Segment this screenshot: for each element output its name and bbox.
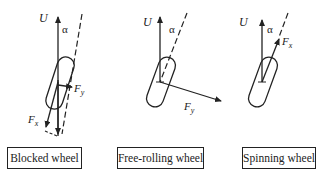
force-resultant-dashed-connector bbox=[45, 131, 57, 136]
force-y-label: Fy bbox=[73, 82, 85, 97]
velocity-label: U bbox=[239, 15, 249, 29]
caption-text: Blocked wheel bbox=[10, 152, 79, 164]
caption-text: Free-rolling wheel bbox=[118, 152, 203, 164]
force-x-arrow bbox=[46, 82, 58, 127]
caption-spinning-wheel: Spinning wheel bbox=[242, 147, 316, 169]
blocked-wheel-diagram: U α Fy Fx bbox=[27, 11, 85, 136]
caption-blocked-wheel: Blocked wheel bbox=[7, 147, 82, 169]
slip-angle-label: α bbox=[267, 23, 273, 35]
free-rolling-wheel-diagram: U α Fy bbox=[143, 13, 221, 115]
force-y-arrow bbox=[160, 82, 221, 101]
wheel-heading-dashed-line bbox=[279, 13, 288, 37]
slip-angle-label: α bbox=[62, 23, 68, 35]
force-x-label: Fx bbox=[281, 35, 293, 50]
force-y-label: Fy bbox=[183, 100, 195, 115]
caption-free-rolling-wheel: Free-rolling wheel bbox=[117, 147, 204, 169]
velocity-label: U bbox=[39, 11, 49, 25]
caption-text: Spinning wheel bbox=[243, 152, 315, 164]
spinning-wheel-diagram: U α Fx bbox=[239, 13, 293, 109]
wheel-slip-diagram: U α Fy Fx U α Fy bbox=[0, 0, 334, 182]
velocity-label: U bbox=[143, 15, 153, 29]
slip-angle-label: α bbox=[169, 23, 175, 35]
force-x-label: Fx bbox=[27, 113, 39, 128]
wheel-shape bbox=[44, 55, 77, 112]
